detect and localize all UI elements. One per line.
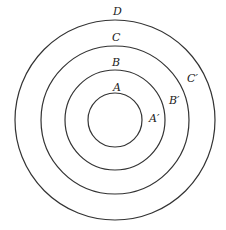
- concentric-circles-diagram: D C B A C′ B′ A′: [0, 0, 226, 230]
- label-c: C: [112, 31, 121, 44]
- label-a: A: [112, 81, 121, 94]
- label-b-prime: B′: [168, 94, 180, 107]
- label-a-prime: A′: [148, 112, 160, 125]
- label-c-prime: C′: [187, 72, 198, 85]
- label-d: D: [112, 5, 122, 18]
- label-b: B: [111, 56, 120, 69]
- circle-a: [88, 93, 142, 147]
- circle-d: [15, 20, 215, 220]
